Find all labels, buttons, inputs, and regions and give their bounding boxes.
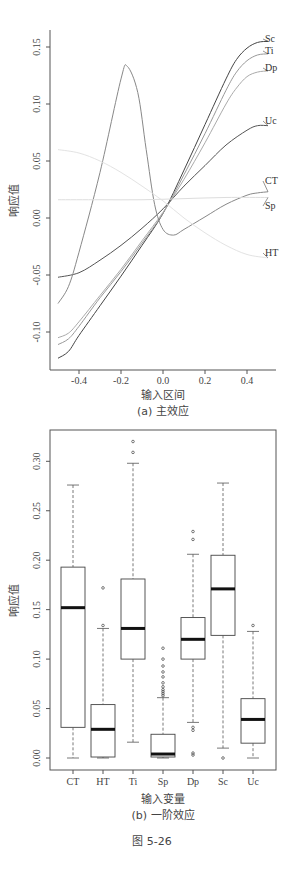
x-axis-title: 输入区间	[141, 388, 185, 402]
y-tick-label: -0.10	[31, 322, 42, 343]
boxplot-dp	[181, 530, 205, 756]
outlier-point	[162, 685, 165, 688]
outlier-point	[162, 647, 165, 650]
outlier-point	[252, 624, 255, 627]
x-ticks: CTHTTiSpDpScUc	[67, 770, 260, 787]
x-tick-label: -0.4	[71, 375, 87, 386]
x-tick-label: 0.0	[157, 375, 170, 386]
x-tick-label-sp: Sp	[158, 776, 169, 787]
outlier-point	[162, 665, 165, 668]
series-label-uc: Uc	[265, 115, 277, 126]
boxplots	[61, 440, 265, 759]
boxplot-sc	[211, 483, 235, 759]
figure-canvas: 0.150.100.050.00-0.05-0.10 -0.4-0.20.00.…	[0, 0, 299, 872]
boxplot-sp	[151, 647, 175, 758]
outlier-point	[162, 676, 165, 679]
series-label-dp: Dp	[265, 62, 277, 73]
y-tick-label: 0.00	[31, 749, 42, 767]
outlier-point	[192, 726, 195, 729]
series-label-ht: HT	[265, 247, 278, 258]
y-tick-label: 0.00	[31, 209, 42, 227]
y-axis-title: 响应值	[7, 184, 21, 217]
outlier-point	[102, 587, 105, 590]
x-ticks: -0.4-0.20.00.20.4	[71, 370, 253, 386]
x-tick-label-ht: HT	[96, 776, 109, 787]
y-tick-label: 0.15	[31, 601, 42, 619]
y-tick-label: -0.05	[31, 265, 42, 286]
y-tick-label: 0.30	[31, 453, 42, 471]
outlier-point	[132, 440, 135, 443]
series-label-ti: Ti	[265, 45, 274, 56]
x-tick-label-dp: Dp	[187, 776, 199, 787]
y-ticks: 0.300.250.200.150.100.050.00	[31, 453, 50, 767]
y-tick-label: 0.05	[31, 152, 42, 170]
y-tick-label: 0.05	[31, 700, 42, 718]
series-line-ct	[58, 65, 268, 304]
outlier-point	[162, 688, 165, 691]
y-tick-label: 0.10	[31, 650, 42, 668]
caption-a: (a) 主效应	[137, 404, 189, 418]
series-labels: ScTiDpUcCTSpHT	[263, 33, 278, 258]
y-tick-label: 0.15	[31, 38, 42, 56]
outlier-point	[192, 752, 195, 755]
iqr-box	[211, 555, 235, 635]
x-tick-label: 0.4	[241, 375, 254, 386]
x-tick-label-sc: Sc	[218, 776, 229, 787]
y-ticks: 0.150.100.050.00-0.05-0.10	[31, 38, 50, 342]
boxplot-ct	[61, 485, 85, 758]
outlier-point	[162, 682, 165, 685]
y-tick-label: 0.20	[31, 551, 42, 569]
outlier-point	[102, 624, 105, 627]
boxplot-ti	[121, 440, 145, 742]
outlier-point	[162, 658, 165, 661]
outlier-point	[192, 538, 195, 541]
caption-b: (b) 一阶效应	[131, 808, 194, 822]
outlier-point	[132, 451, 135, 454]
series-label-ct: CT	[265, 175, 278, 186]
x-tick-label: -0.2	[113, 375, 129, 386]
series-lines	[58, 41, 268, 358]
x-axis-title: 输入变量	[141, 792, 185, 806]
y-tick-label: 0.25	[31, 502, 42, 520]
series-label-sc: Sc	[265, 33, 276, 44]
outlier-point	[222, 757, 225, 760]
iqr-box	[61, 567, 85, 727]
y-tick-label: 0.10	[31, 95, 42, 113]
series-label-sp: Sp	[265, 200, 276, 211]
iqr-box	[121, 579, 145, 659]
figure-label: 图 5-26	[132, 835, 171, 848]
x-tick-label: 0.2	[199, 375, 212, 386]
boxplot-uc	[241, 624, 265, 758]
x-tick-label-ct: CT	[67, 776, 80, 787]
first-order-effect-chart: 0.300.250.200.150.100.050.00 CTHTTiSpDpS…	[7, 430, 276, 822]
main-effect-chart: 0.150.100.050.00-0.05-0.10 -0.4-0.20.00.…	[7, 30, 278, 418]
outlier-point	[192, 729, 195, 732]
series-line-dp	[58, 71, 268, 338]
x-tick-label-ti: Ti	[129, 776, 138, 787]
x-tick-label-uc: Uc	[247, 776, 259, 787]
outlier-point	[162, 671, 165, 674]
series-line-ht	[58, 150, 268, 258]
y-axis-title: 响应值	[7, 584, 21, 617]
boxplot-ht	[91, 587, 115, 758]
outlier-point	[192, 530, 195, 533]
